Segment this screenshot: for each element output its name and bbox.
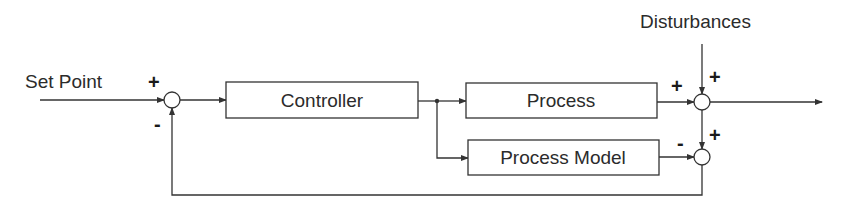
sum3-minus-sign: - <box>677 132 684 154</box>
disturbances-label: Disturbances <box>640 11 751 32</box>
controller-label: Controller <box>281 90 364 111</box>
sum2-plus-sign-disturbance: + <box>709 66 721 88</box>
sum3-plus-sign: + <box>709 124 721 146</box>
sum1-minus-sign: - <box>154 113 161 135</box>
summing-junction-model-error <box>694 149 710 165</box>
summing-junction-output <box>694 94 710 110</box>
set-point-label: Set Point <box>25 71 103 92</box>
process-model-label: Process Model <box>500 147 626 168</box>
sum2-plus-sign-process: + <box>671 75 683 97</box>
process-label: Process <box>527 90 596 111</box>
imc-block-diagram: Set Point Disturbances + - Controller Pr… <box>0 0 851 203</box>
to-model-arrow <box>437 101 468 158</box>
summing-junction-error <box>164 92 180 108</box>
sum1-plus-sign: + <box>148 71 160 93</box>
